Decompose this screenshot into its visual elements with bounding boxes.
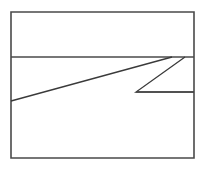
canvas-background [0,0,204,169]
line-drawing-figure [0,0,204,169]
drawing-canvas [0,0,204,169]
